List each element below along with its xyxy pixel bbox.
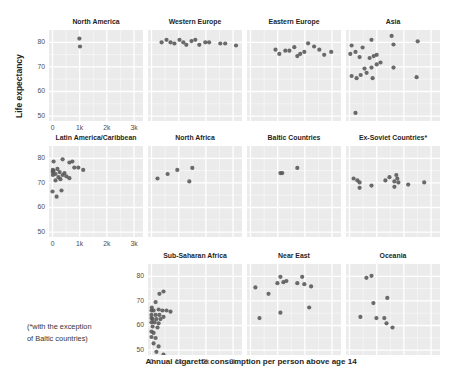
- data-point: [306, 41, 310, 45]
- facet-plot-baltic-countries: [247, 146, 341, 237]
- x-tick-label: 3k: [130, 240, 137, 247]
- facet-panel-north-africa: [148, 146, 242, 237]
- data-point: [168, 40, 172, 44]
- facet-plot-western-europe: [148, 30, 242, 121]
- footnote-line-2: of Baltic countries): [27, 333, 92, 345]
- facet-plot-asia: [346, 30, 440, 121]
- data-point: [55, 195, 59, 199]
- y-tick-label: 50: [130, 346, 144, 353]
- data-point: [302, 50, 306, 54]
- facet-title-north-africa: North Africa: [138, 134, 252, 141]
- data-point: [353, 50, 357, 54]
- data-point: [295, 281, 299, 285]
- data-point: [280, 171, 284, 175]
- data-point: [218, 41, 222, 45]
- y-axis-title: Life expectancy: [14, 54, 24, 118]
- data-point: [203, 40, 207, 44]
- data-point: [362, 67, 366, 71]
- data-point: [309, 284, 313, 288]
- data-point: [374, 316, 378, 320]
- data-point: [355, 76, 359, 80]
- facet-panel-near-east: [247, 264, 341, 355]
- data-point: [385, 296, 389, 300]
- data-point: [391, 42, 395, 46]
- data-point: [350, 43, 354, 47]
- data-point: [154, 313, 158, 317]
- data-point: [350, 74, 354, 78]
- data-point: [384, 321, 388, 325]
- facet-panel-western-europe: [148, 30, 242, 121]
- facet-title-latin-america-caribbean: Latin America/Caribbean: [39, 134, 153, 141]
- data-point: [157, 321, 161, 325]
- data-point: [378, 60, 382, 64]
- data-point: [266, 292, 270, 296]
- data-point: [348, 52, 352, 56]
- data-point: [387, 175, 391, 179]
- data-point: [295, 166, 299, 170]
- x-tick-label: 3k: [229, 358, 236, 365]
- data-point: [166, 172, 170, 176]
- data-point: [369, 66, 373, 70]
- data-point: [312, 44, 316, 48]
- x-tick-label: 2k: [202, 358, 209, 365]
- facet-plot-latin-america-caribbean: [49, 146, 143, 237]
- data-point: [70, 159, 74, 163]
- y-tick-label: 60: [31, 203, 45, 210]
- data-point: [172, 41, 176, 45]
- data-point: [390, 34, 394, 38]
- data-point: [50, 189, 54, 193]
- data-point: [51, 170, 55, 174]
- facet-title-baltic-countries: Baltic Countries: [237, 134, 351, 141]
- data-point: [358, 55, 362, 59]
- x-tick-label: 2k: [103, 240, 110, 247]
- data-point: [383, 178, 387, 182]
- data-point: [152, 320, 156, 324]
- facet-plot-eastern-europe: [247, 30, 341, 121]
- data-point: [207, 40, 211, 44]
- data-point: [175, 168, 179, 172]
- y-tick-label: 70: [31, 63, 45, 70]
- data-point: [53, 178, 57, 182]
- facet-plot-north-africa: [148, 146, 242, 237]
- x-tick-label: 3k: [130, 124, 137, 131]
- data-point: [160, 308, 164, 312]
- facet-plot-near-east: [247, 264, 341, 355]
- data-point: [189, 39, 193, 43]
- facet-panel-north-america: [49, 30, 143, 121]
- data-point: [149, 335, 153, 339]
- data-point: [59, 188, 63, 192]
- y-tick-label: 80: [31, 154, 45, 161]
- y-tick-label: 80: [130, 272, 144, 279]
- data-point: [154, 300, 158, 304]
- data-point: [298, 52, 302, 56]
- x-tick-label: 1k: [175, 358, 182, 365]
- data-point: [364, 276, 368, 280]
- facet-plot-oceania: [346, 264, 440, 355]
- data-point: [161, 315, 165, 319]
- data-point: [369, 184, 373, 188]
- facet-title-sub-saharan-africa: Sub-Saharan Africa: [138, 252, 252, 259]
- data-point: [177, 38, 181, 42]
- data-point: [278, 311, 282, 315]
- data-point: [277, 52, 281, 56]
- data-point: [223, 41, 227, 45]
- data-point: [358, 180, 362, 184]
- data-point: [58, 177, 62, 181]
- data-point: [375, 62, 379, 66]
- data-point: [382, 316, 386, 320]
- facet-plot-sub-saharan-africa: [148, 264, 242, 355]
- data-point: [155, 176, 159, 180]
- data-point: [283, 49, 287, 53]
- data-point: [358, 315, 362, 319]
- facet-title-oceania: Oceania: [336, 252, 450, 259]
- data-point: [78, 44, 82, 48]
- x-tick-label: 0: [150, 358, 154, 365]
- x-tick-label: 0: [51, 124, 55, 131]
- data-point: [168, 310, 172, 314]
- data-point: [375, 53, 379, 57]
- data-point: [257, 316, 261, 320]
- data-point: [160, 40, 164, 44]
- data-point: [157, 307, 161, 311]
- data-point: [371, 301, 375, 305]
- facet-title-ex-soviet-countries: Ex-Soviet Countries*: [336, 134, 450, 141]
